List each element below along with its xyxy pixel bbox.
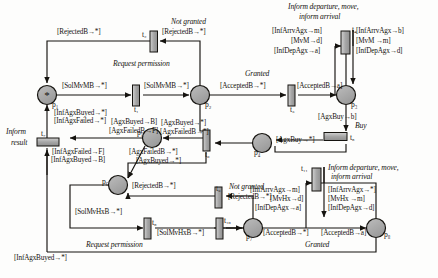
place-p1-token: * [44,89,50,101]
arc-label-agxfailedb-star-down: [AgxFailedB→*] [129,148,178,156]
transition-label-t9: t₉ [216,185,220,193]
arc-label-infagxbuyed-star-bottom: [InfAgxBuyed→*] [14,254,67,262]
arc-label-acceptedb-right-bot: [AcceptedB→a] [321,229,366,237]
event-label-buy: Buy [355,122,366,130]
arc-label-solmvmb-left: [SolMvMB→*] [62,82,107,90]
arc-label-infdepagx-a-b: [InfDepAgx→a] [255,204,301,212]
arc-label-infarrvagx-m: [InfArrvAgx→m] [272,27,322,35]
arc-label-infarrvagx-b: [InfArrvAgx→b] [356,27,404,35]
transition-t10[interactable] [216,218,223,239]
transition-t7[interactable] [37,138,59,146]
arc-label-mvm-d: [MvM→d] [291,37,322,45]
transition-label-t11: t₁₁ [301,165,308,173]
place-label-p3: p₃ [351,101,357,109]
arc-t6-to-p6 [128,163,160,178]
event-label-request-permission-top: Request permission [113,60,170,68]
place-label-p4: p₄ [254,149,260,157]
petri-net-diagram: * p₁ p₂ p₃ p₄ p₅ p₆ p₇ p₈ t₁ t₂ t₃ t₄ t₅ [0,0,438,278]
arc-label-mvhx-m: [MvHx →m] [328,195,365,203]
arc-label-infagxfailed-F: [InfAgxFailed→F] [52,148,104,156]
arc-label-solmvmb-right: [SolMvMB→*] [144,82,189,90]
arc-label-solmvhxb-right: [SolMvHxB→*] [157,229,204,237]
arc-label-agxbuyed-star-down: [AgxBuyed→*] [136,157,181,165]
arc-label-acceptedb-right-top: [AcceptedB→a] [297,82,342,90]
place-label-p2: p₂ [205,101,211,109]
transition-label-t6: t₆ [205,151,209,159]
arc-label-solmvhxb-left: [SolMvHxB→*] [75,208,122,216]
transition-label-t1: t₁ [134,106,138,114]
place-p6[interactable] [109,176,128,195]
transition-t5[interactable] [324,133,347,141]
transition-label-t3: t₃ [290,106,294,114]
event-label-inform-result-2: result [11,139,27,147]
event-label-inform-departure-top-1: Inform departure, move, [288,3,359,11]
arc-label-infagxbuyed-star-up: [InfAgxBuyed→*] [54,109,107,117]
transition-label-t10: t₁₀ [224,217,231,225]
event-label-granted-top: Granted [245,70,269,78]
event-label-inform-result-1: Inform [6,128,26,136]
place-label-p7: p₇ [246,233,252,241]
transition-t1[interactable] [133,85,140,106]
arc-label-agxbuy-b: [AgxBuy→b] [318,113,356,121]
arc-label-mvhx-d: [MvHx→d] [270,195,303,203]
place-p8[interactable] [367,219,386,238]
arc-label-infdepagx-d-b: [InfDepAgx→d] [328,204,374,212]
arc-t5-hook [275,144,346,152]
transition-t8[interactable] [144,218,151,239]
transition-t4[interactable] [341,31,350,54]
transition-t2[interactable] [150,31,158,52]
arc-label-agxfailedb-F: [AgxFailedB→F] [109,127,158,135]
arc-p6-t8 [70,185,143,228]
event-label-inform-departure-bottom-1: Inform departure, move, [328,164,399,172]
event-label-inform-departure-bottom-2: inform arrival [331,173,372,181]
transition-t3[interactable] [288,85,295,106]
transition-label-t7: t₇ [41,130,45,138]
arc-label-rejected-left-top: [RejectedB→*] [57,28,101,36]
arc-label-acceptedb-left-bot: [AcceptedB→*] [263,229,309,237]
transition-label-t2: t₂ [142,31,146,39]
transition-label-t8: t₈ [152,219,156,227]
arc-t9-p6 [128,193,215,196]
event-label-request-permission-bottom: Request permission [86,241,143,249]
event-label-inform-departure-top-2: inform arrival [299,13,340,21]
arc-label-infagxbuyed-B: [InfAgxBuyed→B] [51,156,105,164]
place-label-p1: p₁ [52,101,58,109]
arc-label-infagxfailed-star-up: [InfAgxFailed→*] [54,117,106,125]
arc-label-rejected-right-top: [RejectedB→*] [162,28,206,36]
arc-label-rejectedb-star-mid: [RejectedB→*] [132,182,176,190]
arc-label-infdepagx-a: [InfDepAgx→a] [274,47,320,55]
arc-label-agxbuyed-star-right: [AgxBuyed→*] [161,119,206,127]
place-label-p6: p₆ [102,178,108,186]
arc-label-agxbuyed-B: [AgxBuyed→B] [111,118,157,126]
event-label-not-granted-top: Not granted [171,18,206,26]
arc-label-agxfailedb-star-right: [AgxFailedB→*] [160,128,209,136]
arc-label-acceptedb-left-top: [AcceptedB→*] [220,82,266,90]
arc-label-agxbuy-star: [AgxBuy→*] [276,136,314,144]
arc-label-infarrvagx-star: [InfArrvAgx→*] [328,186,376,194]
arc-label-rejectedb-right-mid: [RejectedB→*] [228,193,272,201]
transition-t11[interactable] [312,168,321,191]
place-label-p8: p₈ [384,231,390,239]
arc-label-infdepagx-d: [InfDepAgx→d] [356,47,402,55]
transition-label-t5: t₅ [350,134,354,142]
event-label-granted-bottom: Granted [305,241,329,249]
arc-label-mvm-m: [MvM →m] [356,37,391,45]
arc-label-infarrvagx-m-b: [InfArrvAgx→m] [250,186,300,194]
